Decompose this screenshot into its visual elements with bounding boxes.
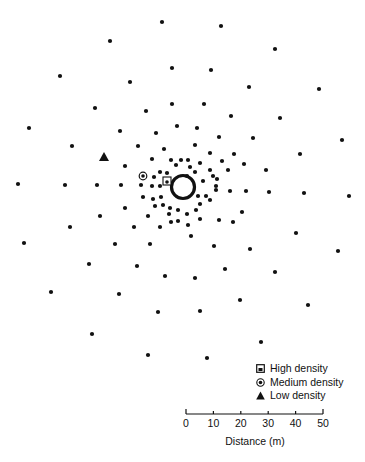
scatter-point (294, 231, 298, 235)
scatter-point (161, 203, 165, 207)
scatter-point (185, 212, 189, 216)
scatter-point (162, 147, 166, 151)
scatter-point (247, 85, 251, 89)
scatter-point (209, 68, 213, 72)
scatter-point (63, 183, 67, 187)
scale-tick-20: 20 (235, 417, 247, 429)
scatter-point (231, 220, 235, 224)
scatter-point (198, 202, 202, 206)
scale-tick-40: 40 (290, 417, 302, 429)
scatter-point (193, 170, 197, 174)
scatter-point (194, 208, 198, 212)
scatter-point (117, 292, 121, 296)
high-density-marker-icon (163, 177, 171, 185)
scatter-point (186, 158, 190, 162)
scatter-point (208, 198, 212, 202)
scatter-point (317, 87, 321, 91)
scatter-point (87, 262, 91, 266)
scatter-point (163, 274, 167, 278)
legend-label-high: High density (270, 362, 328, 376)
scatter-point (248, 247, 252, 251)
scatter-point (298, 152, 302, 156)
scatter-point (148, 242, 152, 246)
scatter-point (136, 144, 140, 148)
scatter-point (176, 219, 180, 223)
scatter-point (193, 276, 197, 280)
scatter-point (98, 214, 102, 218)
scatter-point (205, 356, 209, 360)
scatter-point (259, 340, 263, 344)
legend-item-medium: Medium density (256, 376, 344, 390)
scatter-point (169, 220, 173, 224)
scatter-point (188, 165, 192, 169)
scatter-point (347, 194, 351, 198)
scatter-point (165, 171, 169, 175)
scale-tick-0: 0 (183, 417, 189, 429)
scatter-point (90, 332, 94, 336)
scatter-points (16, 20, 351, 360)
scale-tick-10: 10 (208, 417, 220, 429)
scatter-point (170, 102, 174, 106)
scatter-point (139, 183, 143, 187)
scatter-point (175, 124, 179, 128)
scatter-point (336, 249, 340, 253)
scatter-point (193, 143, 197, 147)
scale-title: Distance (m) (180, 435, 330, 447)
scatter-point (167, 212, 171, 216)
scatter-point (158, 225, 162, 229)
scatter-point (240, 210, 244, 214)
scatter-point (264, 168, 268, 172)
scatter-point (278, 116, 282, 120)
scatter-point (208, 151, 212, 155)
scatter-point (220, 159, 224, 163)
scatter-point (198, 161, 202, 165)
scatter-point (244, 189, 248, 193)
scatter-point (22, 241, 26, 245)
scatter-point (68, 225, 72, 229)
scatter-point (132, 225, 136, 229)
scatter-point (273, 270, 277, 274)
scatter-point (195, 126, 199, 130)
scatter-point (214, 184, 218, 188)
scatter-point (141, 195, 145, 199)
scatter-point (198, 217, 202, 221)
scatter-point (146, 353, 150, 357)
scatter-point (160, 20, 164, 24)
scatter-point (150, 184, 154, 188)
scatter-point (128, 80, 132, 84)
scatter-point (219, 24, 223, 28)
scatter-point (144, 109, 148, 113)
scatter-point (152, 175, 156, 179)
scatter-point (151, 197, 155, 201)
scatter-point (153, 204, 157, 208)
scatter-point (159, 195, 163, 199)
scatter-point (154, 131, 158, 135)
scatter-point (223, 267, 227, 271)
scatter-point (228, 189, 232, 193)
scatter-point (135, 264, 139, 268)
scatter-point (27, 126, 31, 130)
scale-tick-30: 30 (262, 417, 274, 429)
legend: High density Medium density Low density (256, 362, 344, 403)
scatter-point (232, 152, 236, 156)
scatter-point (169, 158, 173, 162)
scatter-point (176, 208, 180, 212)
scatter-point (156, 310, 160, 314)
scatter-point (123, 164, 127, 168)
scale-bar: 0 10 20 30 40 50 Distance (m) (180, 405, 330, 455)
scatter-point (201, 179, 205, 183)
scatter-point (302, 191, 306, 195)
scatter-point (215, 177, 219, 181)
legend-label-low: Low density (270, 389, 325, 403)
scatter-point (179, 158, 183, 162)
scatter-point (158, 170, 162, 174)
scatter-point (251, 136, 255, 140)
scatter-point (204, 194, 208, 198)
scatter-point (214, 188, 218, 192)
scatter-point (212, 244, 216, 248)
scatter-point (208, 168, 212, 172)
scatter-point (226, 168, 230, 172)
scatter-point (189, 234, 193, 238)
scatter-point (95, 183, 99, 187)
scatter-point (211, 174, 215, 178)
